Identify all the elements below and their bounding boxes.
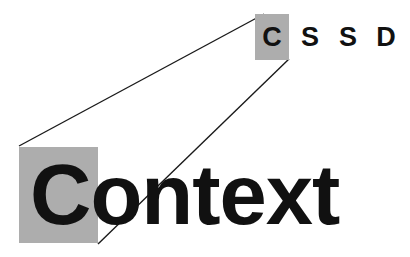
acronym-letter-d: D (376, 24, 396, 51)
acronym-letter-cell: S (331, 14, 365, 60)
diagram-canvas: C S S D Context (0, 0, 410, 257)
acronym-letter-cell-highlighted: C (255, 14, 289, 60)
acronym-letter-cell: D (369, 14, 403, 60)
acronym-label: C S S D (255, 14, 403, 60)
acronym-letter-s1: S (301, 24, 319, 51)
acronym-letter-cell: S (293, 14, 327, 60)
expanded-word-text: Context (30, 147, 339, 243)
acronym-letter-c: C (262, 24, 282, 51)
upper-connector-line (19, 14, 264, 146)
acronym-letter-s2: S (339, 24, 357, 51)
expanded-word-group: Context (19, 147, 339, 243)
